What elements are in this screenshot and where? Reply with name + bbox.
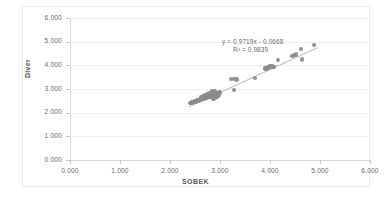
x-tick-label: 3.000 [200,168,240,175]
y-tick-label: 0.000 [2,157,62,164]
x-tick-mark [120,160,121,164]
x-tick-label: 2.000 [150,168,190,175]
x-tick-label: 5.000 [300,168,340,175]
x-tick-label: 0.000 [50,168,90,175]
x-tick-mark [170,160,171,164]
scatter-point [294,52,298,56]
y-tick-label: 2.000 [2,109,62,116]
x-tick-mark [270,160,271,164]
scatter-point [264,67,268,71]
x-tick-mark [220,160,221,164]
scatter-point [312,43,316,47]
chart-container: Diver SOBEK 0.0001.0002.0003.0004.0005.0… [0,0,391,202]
y-tick-label: 6.000 [2,15,62,22]
x-tick-label: 6.000 [350,168,390,175]
scatter-point [217,92,221,96]
y-tick-label: 5.000 [2,38,62,45]
trendline-equation-label: y = 0.9719x - 0.0668 [222,38,283,45]
x-tick-mark [320,160,321,164]
scatter-point [300,57,304,61]
x-tick-mark [370,160,371,164]
x-tick-label: 4.000 [250,168,290,175]
x-tick-mark [70,160,71,164]
x-tick-label: 1.000 [100,168,140,175]
y-tick-label: 3.000 [2,86,62,93]
x-axis-title: SOBEK [0,178,391,185]
plot-area [70,18,370,160]
r-squared-label: R² = 0.9839 [233,46,268,53]
y-tick-label: 4.000 [2,62,62,69]
y-tick-label: 1.000 [2,133,62,140]
scatter-point [234,77,238,81]
trendline [70,18,370,160]
